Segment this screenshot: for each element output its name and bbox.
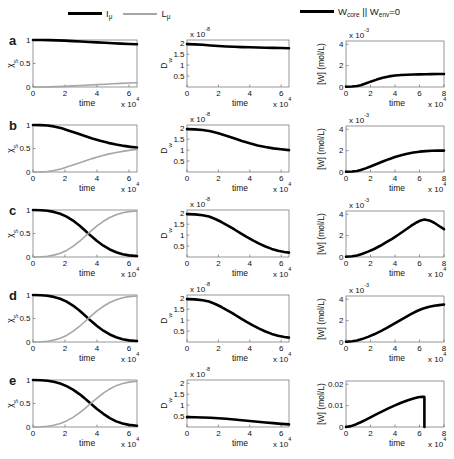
x-tick-label: 0 [185,429,190,438]
legend-entry-L-mu: Lμ [123,8,170,19]
y-axis-multiplier: x 10-3 [349,27,369,40]
axes-c-chi: 024600.51timex 104χS [0,198,152,283]
y-tick-label: 1.5 [173,220,185,229]
x-tick-label: 0 [185,89,190,98]
y-axis-multiplier: x 10-8 [190,26,210,39]
plot-frame [33,380,137,427]
x-tick-label: 6 [417,259,422,268]
panel-e-dw: 02460.511.52timex 104Dwx 10-8 [152,368,302,453]
y-tick-label: 1.5 [173,50,185,59]
y-axis-label: [W] (mol/L) [316,128,326,170]
axes-d-chi: 024600.51timex 104χS [0,283,152,368]
plot-frame [33,295,137,342]
panel-row-e: e024600.51timex 104χS02460.511.52timex 1… [0,368,454,453]
y-tick-label: 2 [339,316,344,325]
y-tick-label: 4 [339,210,344,219]
x-tick-label: 4 [95,344,100,353]
plot-frame [33,40,137,87]
legend-swatch-L-mu [123,13,157,15]
x-tick-label: 0 [31,429,36,438]
x-tick-label: 6 [127,344,132,353]
axes-d-dw: 02460.511.52timex 104Dwx 10-8 [152,283,302,368]
x-axis-multiplier: x 104 [428,351,446,364]
x-tick-label: 4 [95,174,100,183]
panel-e-chi: 024600.51timex 104χS [0,368,152,453]
x-tick-label: 2 [216,429,221,438]
x-tick-label: 4 [393,344,398,353]
panel-c-dw: 02460.511.52timex 104Dwx 10-8 [152,198,302,283]
y-tick-label: 0.5 [173,157,185,166]
x-tick-label: 6 [279,429,284,438]
y-axis-multiplier: x 10-3 [349,197,369,210]
y-tick-label: 0 [339,423,344,432]
y-tick-label: 1 [180,61,185,70]
x-axis-multiplier: x 104 [428,266,446,279]
figure-panel-grid: Iμ Lμ Wcore || Wenv=0 a024600.51timex 10… [0,0,454,459]
x-tick-label: 2 [216,259,221,268]
panel-e-w: 0246800.010.02timex 104[W] (mol/L) [302,368,454,453]
x-tick-label: 4 [248,174,253,183]
plot-frame [33,210,137,257]
legend-label-L-mu: Lμ [161,8,170,19]
x-tick-label: 6 [279,89,284,98]
y-tick-label: 1.5 [173,135,185,144]
panel-b-w: 02468024timex 104[W] (mol/L)x 10-3 [302,113,454,198]
y-tick-label: 0.5 [173,242,185,251]
panel-c-chi: 024600.51timex 104χS [0,198,152,283]
axes-c-w: 02468024timex 104[W] (mol/L)x 10-3 [302,198,454,283]
x-tick-label: 2 [63,259,68,268]
axes-b-chi: 024600.51timex 104χS [0,113,152,198]
x-tick-label: 6 [279,344,284,353]
x-tick-label: 6 [127,89,132,98]
y-tick-label: 1 [180,401,185,410]
x-tick-label: 4 [95,259,100,268]
x-tick-label: 2 [368,344,373,353]
x-tick-label: 2 [368,174,373,183]
panel-a-w: 02468024timex 104[W] (mol/L)x 10-3 [302,28,454,113]
legend-swatch-I-mu [68,12,102,15]
y-tick-label: 0 [339,338,344,347]
y-tick-label: 0.5 [19,144,31,153]
x-tick-label: 4 [393,89,398,98]
y-tick-label: 4 [339,295,344,304]
x-tick-label: 0 [344,344,349,353]
axes-a-dw: 02460.511.52timex 104Dwx 10-8 [152,28,302,113]
y-axis-label: Dw [159,228,173,239]
y-tick-label: 2 [339,61,344,70]
y-tick-label: 0.5 [19,399,31,408]
axes-a-chi: 024600.51timex 104χS [0,28,152,113]
legend-label-W-core-env: Wcore || Wenv=0 [338,6,400,17]
panel-d-w: 02468024timex 104[W] (mol/L)x 10-3 [302,283,454,368]
y-tick-label: 2 [339,146,344,155]
x-tick-label: 0 [344,259,349,268]
x-axis-label: time [389,98,405,108]
x-tick-label: 6 [417,174,422,183]
axes-e-dw: 02460.511.52timex 104Dwx 10-8 [152,368,302,453]
plot-frame [33,125,137,172]
x-tick-label: 2 [216,174,221,183]
x-tick-label: 0 [344,174,349,183]
x-tick-label: 0 [344,429,349,438]
y-axis-label: [W] (mol/L) [316,383,326,425]
y-tick-label: 0.5 [19,229,31,238]
y-axis-label: χS [5,399,19,407]
y-tick-label: 1 [26,376,31,385]
x-tick-label: 2 [368,429,373,438]
panel-d-dw: 02460.511.52timex 104Dwx 10-8 [152,283,302,368]
x-tick-label: 2 [216,344,221,353]
y-tick-label: 2 [339,231,344,240]
axes-d-w: 02468024timex 104[W] (mol/L)x 10-3 [302,283,454,368]
y-axis-label: Dw [159,58,173,69]
x-tick-label: 2 [216,89,221,98]
legend-left: Iμ Lμ [68,8,170,19]
x-tick-label: 4 [248,259,253,268]
x-tick-label: 2 [63,174,68,183]
y-tick-label: 0.5 [173,72,185,81]
panel-row-d: d024600.51timex 104χS02460.511.52timex 1… [0,283,454,368]
y-axis-label: [W] (mol/L) [316,298,326,340]
y-axis-multiplier: x 10-8 [190,111,210,124]
x-tick-label: 4 [248,429,253,438]
x-axis-label: time [389,183,405,193]
y-tick-label: 1 [26,36,31,45]
legend-entry-I-mu: Iμ [68,8,112,19]
